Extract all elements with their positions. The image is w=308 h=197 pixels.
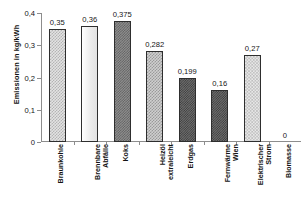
bar[interactable] xyxy=(49,29,66,142)
y-axis-title: Emissionen in kg/kWh xyxy=(12,5,21,125)
bar[interactable] xyxy=(146,51,163,142)
y-tick-mark xyxy=(37,142,41,143)
bar-value-label: 0 xyxy=(283,131,287,140)
bar[interactable] xyxy=(114,21,131,142)
x-category-label: Koks xyxy=(122,144,130,194)
bar-slot xyxy=(114,13,131,142)
bar-series: 0,350,360,3750,2820,1990,160,270 xyxy=(41,13,301,142)
y-tick-label: 0,4 xyxy=(24,9,35,18)
bar-slot xyxy=(276,13,293,142)
bar-value-label: 0,282 xyxy=(145,40,164,49)
bar-slot xyxy=(179,13,196,142)
bar[interactable] xyxy=(211,90,228,142)
bar-slot xyxy=(211,13,228,142)
emissions-bar-chart: Emissionen in kg/kWh 00,10,20,30,4 0,350… xyxy=(0,0,308,197)
bar-value-label: 0,36 xyxy=(82,15,97,24)
x-category-label: Biomasse xyxy=(285,144,293,194)
bar-value-label: 0,35 xyxy=(50,18,65,27)
bar-value-label: 0,199 xyxy=(178,67,197,76)
plot-area: 00,10,20,30,4 0,350,360,3750,2820,1990,1… xyxy=(41,13,301,142)
bar[interactable] xyxy=(179,78,196,142)
x-category-label: Erdgas xyxy=(187,144,195,194)
x-category-label: Braunkohle xyxy=(57,144,65,194)
x-category-label: Heizöl extraleicht xyxy=(159,144,176,194)
x-category-label: Brennbare Abfälle xyxy=(94,144,111,194)
bar-value-label: 0,27 xyxy=(245,44,260,53)
bar-slot xyxy=(81,13,98,142)
bar[interactable] xyxy=(81,26,98,142)
bar-value-label: 0,375 xyxy=(113,10,132,19)
x-category-label: Fernwärme Wien xyxy=(224,144,241,194)
bar-slot xyxy=(244,13,261,142)
y-tick-label: 0,2 xyxy=(24,73,35,82)
bar-slot xyxy=(146,13,163,142)
bar-value-label: 0,16 xyxy=(212,79,227,88)
y-tick-label: 0,1 xyxy=(24,105,35,114)
bar-slot xyxy=(49,13,66,142)
bar[interactable] xyxy=(244,55,261,142)
y-tick-label: 0,3 xyxy=(24,41,35,50)
y-tick-label: 0 xyxy=(31,138,35,147)
x-category-label: Elektrischer Strom xyxy=(257,144,274,194)
x-axis-category-labels: BraunkohleBrennbare AbfälleKoksHeizöl ex… xyxy=(41,144,301,197)
